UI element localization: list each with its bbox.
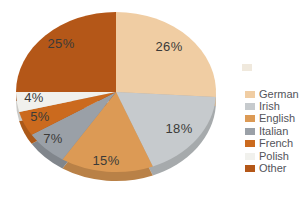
legend-item-italian: Italian (245, 125, 299, 137)
legend-item-polish: Polish (245, 150, 299, 162)
legend-swatch-english (245, 115, 255, 122)
pie-slice-german (116, 12, 216, 97)
legend-swatch-polish (245, 153, 255, 160)
pie-chart-figure: 26%18%15%7%5%4%25% GermanIrishEnglishIta… (0, 0, 307, 197)
legend-swatch-irish (245, 103, 255, 110)
legend-swatch-german (245, 91, 255, 98)
legend-item-german: German (245, 88, 299, 100)
legend-item-irish: Irish (245, 100, 299, 112)
legend-swatch-italian (245, 128, 255, 135)
legend-artifact-swatch (242, 64, 252, 71)
legend-swatch-french (245, 140, 255, 147)
legend-label-polish: Polish (259, 151, 289, 162)
legend-item-other: Other (245, 162, 299, 174)
legend: GermanIrishEnglishItalianFrenchPolishOth… (245, 88, 299, 175)
pie-slice-other (16, 12, 116, 92)
legend-label-english: English (259, 113, 295, 124)
legend-swatch-other (245, 165, 255, 172)
legend-item-french: French (245, 138, 299, 150)
legend-item-english: English (245, 113, 299, 125)
legend-label-other: Other (259, 163, 287, 174)
legend-label-french: French (259, 138, 293, 149)
legend-label-italian: Italian (259, 126, 288, 137)
legend-label-german: German (259, 89, 299, 100)
legend-label-irish: Irish (259, 101, 280, 112)
